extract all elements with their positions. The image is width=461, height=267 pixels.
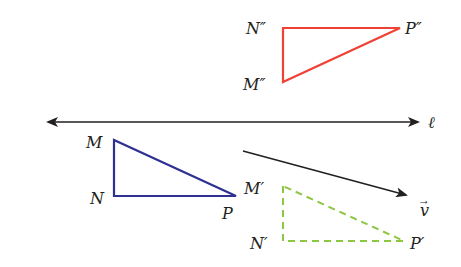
- triangle-mnp: [114, 140, 236, 196]
- label-n-double-prime: N″: [245, 19, 266, 38]
- label-p: P: [221, 204, 233, 223]
- label-m-double-prime: M″: [242, 75, 265, 94]
- vector-arrow-accent-icon: →: [418, 193, 430, 207]
- label-m-prime: M′: [243, 179, 264, 198]
- label-n-prime: N′: [249, 234, 268, 253]
- label-line-l: ℓ: [428, 113, 435, 132]
- triangle-m-double-prime-n-double-prime-p-double-prime: [283, 28, 400, 82]
- triangle-m-prime-n-prime-p-prime: [283, 186, 404, 241]
- label-m: M: [85, 133, 103, 152]
- vector-v: [243, 151, 406, 195]
- label-p-prime: P′: [409, 234, 425, 253]
- label-n: N: [89, 189, 105, 208]
- label-p-double-prime: P″: [404, 19, 422, 38]
- translation-reflection-diagram: N″ P″ M″ ℓ M N P v → M′ N′ P′: [0, 0, 461, 267]
